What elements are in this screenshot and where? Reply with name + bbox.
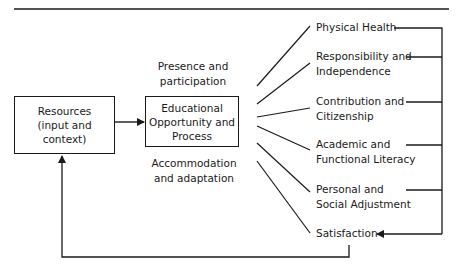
fan-line-personal xyxy=(257,143,310,192)
resources-box: Resources (input and context) xyxy=(14,96,115,154)
fan-line-contribution xyxy=(257,108,310,117)
fan-line-satisfaction xyxy=(257,161,310,233)
process-line-3: Process xyxy=(172,129,212,143)
outcome-responsibility-independence: Responsibility and Independence xyxy=(316,49,412,79)
fan-line-physical-health xyxy=(257,26,310,86)
process-line-2: Opportunity and xyxy=(149,115,235,129)
educational-process-box: Educational Opportunity and Process xyxy=(145,96,239,147)
fan-line-responsibility xyxy=(257,63,310,104)
outcome-academic-functional-literacy: Academic and Functional Literacy xyxy=(316,137,415,167)
presence-participation-label: Presence and participation xyxy=(152,59,234,89)
outcome-physical-health: Physical Health xyxy=(316,20,397,35)
outcome-satisfaction: Satisfaction xyxy=(316,226,378,241)
accommodation-adaptation-label: Accommodation and adaptation xyxy=(146,156,242,186)
outcome-personal-social-adjustment: Personal and Social Adjustment xyxy=(316,182,411,212)
outcome-contribution-citizenship: Contribution and Citizenship xyxy=(316,94,404,124)
process-line-1: Educational xyxy=(161,101,223,115)
resources-title: Resources xyxy=(38,104,92,118)
fan-line-academic xyxy=(257,126,310,150)
outcomes-model-diagram: Resources (input and context) Educationa… xyxy=(0,0,457,267)
resources-subtitle: (input and context) xyxy=(15,118,114,146)
